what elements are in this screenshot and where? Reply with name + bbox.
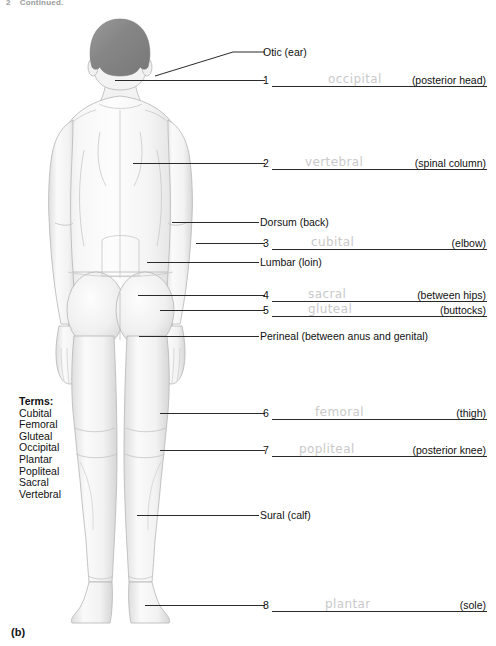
answer-rule-6 <box>272 419 487 420</box>
answer-written-3: cubital <box>311 235 354 249</box>
answer-number-4: 4 <box>263 289 269 301</box>
label-dorsum: Dorsum (back) <box>260 216 329 228</box>
answer-written-1: occipital <box>328 72 382 86</box>
answer-number-2: 2 <box>263 157 269 169</box>
leader-line-occipital <box>115 80 265 81</box>
answer-hint-6: (thigh) <box>456 407 486 419</box>
answer-written-8: plantar <box>325 597 371 611</box>
leader-line-cubital <box>196 243 265 244</box>
answer-rule-1 <box>272 86 487 87</box>
term-item: Plantar <box>19 454 61 466</box>
answer-hint-7: (posterior knee) <box>412 444 486 456</box>
answer-number-3: 3 <box>263 237 269 249</box>
answer-hint-2: (spinal column) <box>415 157 486 169</box>
answer-hint-4: (between hips) <box>417 289 486 301</box>
answer-hint-3: (elbow) <box>452 237 486 249</box>
answer-row-2[interactable]: 2 vertebral (spinal column) <box>263 154 487 172</box>
terms-word-bank: Terms: Cubital Femoral Gluteal Occipital… <box>19 396 61 500</box>
leader-line-femoral <box>160 413 265 414</box>
answer-written-7: popliteal <box>299 442 355 456</box>
answer-rule-5 <box>272 316 487 317</box>
body-figure-illustration <box>28 10 258 625</box>
leader-line-dorsum <box>172 222 259 223</box>
answer-row-6[interactable]: 6 femoral (thigh) <box>263 404 487 422</box>
answer-number-8: 8 <box>263 599 269 611</box>
answer-number-1: 1 <box>263 74 269 86</box>
answer-row-5[interactable]: 5 gluteal (buttocks) <box>263 301 487 319</box>
answer-hint-8: (sole) <box>460 599 486 611</box>
answer-row-1[interactable]: 1 occipital (posterior head) <box>263 71 487 89</box>
answer-number-5: 5 <box>263 304 269 316</box>
answer-rule-3 <box>272 249 487 250</box>
leader-line-vertebral <box>133 163 265 164</box>
answer-rule-2 <box>272 169 487 170</box>
figure-caption: (b) <box>11 626 25 638</box>
answer-number-7: 7 <box>263 444 269 456</box>
answer-hint-1: (posterior head) <box>412 74 486 86</box>
answer-written-2: vertebral <box>305 155 363 169</box>
answer-written-4: sacral <box>308 287 346 301</box>
leader-line-plantar <box>145 605 265 606</box>
answer-written-6: femoral <box>315 405 364 419</box>
leader-line-sural <box>137 515 259 516</box>
answer-hint-5: (buttocks) <box>440 304 486 316</box>
answer-number-6: 6 <box>263 407 269 419</box>
label-perineal: Perineal (between anus and genital) <box>260 330 428 342</box>
leader-line-lumbar <box>147 262 259 263</box>
leader-line-sacral <box>138 295 265 296</box>
answer-row-7[interactable]: 7 popliteal (posterior knee) <box>263 441 487 459</box>
leader-line-gluteal <box>160 310 265 311</box>
label-otic: Otic (ear) <box>263 46 307 58</box>
label-sural: Sural (calf) <box>260 509 311 521</box>
answer-rule-7 <box>272 456 487 457</box>
answer-row-8[interactable]: 8 plantar (sole) <box>263 596 487 614</box>
label-lumbar: Lumbar (loin) <box>260 256 322 268</box>
term-item: Sacral <box>19 477 61 489</box>
terms-list: Cubital Femoral Gluteal Occipital Planta… <box>19 408 61 501</box>
terms-title: Terms: <box>19 396 61 408</box>
page-header: 2Continued. <box>6 0 63 7</box>
leader-line-otic <box>155 48 265 80</box>
term-item: Vertebral <box>19 489 61 501</box>
answer-rule-8 <box>272 611 487 612</box>
figure-number: 2 <box>6 0 11 7</box>
leader-line-popliteal <box>160 450 265 451</box>
continued-text: Continued. <box>20 0 64 7</box>
leader-line-perineal <box>139 336 259 337</box>
answer-row-3[interactable]: 3 cubital (elbow) <box>263 234 487 252</box>
answer-written-5: gluteal <box>308 302 352 316</box>
